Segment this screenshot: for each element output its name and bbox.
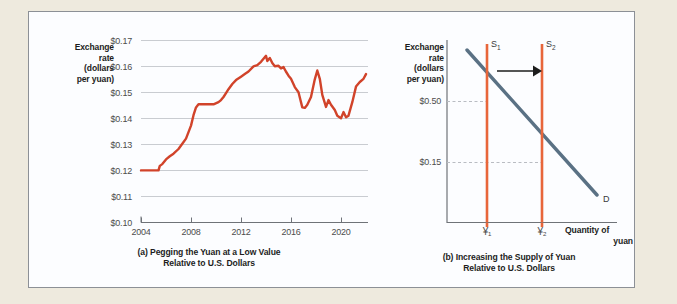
chart-b-y-axis-title: Exchange rate (dollars per yuan)	[369, 42, 444, 84]
chart-a-xtick-2012: 2012	[221, 227, 261, 237]
chart-a-ytick-0.14: $0.14	[89, 114, 132, 124]
chart-b-xtick-yuan-1: ¥₁	[467, 226, 507, 237]
chart-b-caption: (b) Increasing the Supply of Yuan Relati…	[389, 252, 629, 274]
chart-a-x-axis	[141, 217, 368, 223]
chart-a-xtick-2004: 2004	[121, 227, 161, 237]
chart-a-series-line	[141, 56, 366, 171]
chart-a-xtick-2020: 2020	[321, 227, 361, 237]
chart-panel-a: Exchange rate (dollars per yuan) $0.17 $…	[29, 12, 379, 289]
chart-a-caption-line-1: (a) Pegging the Yuan at a Low Value	[84, 247, 334, 258]
y-axis-title-line-3: (dollars	[369, 63, 444, 74]
chart-a-gridlines	[141, 41, 368, 197]
chart-a-xtick-marks	[142, 218, 342, 223]
chart-a-xtick-2016: 2016	[271, 227, 311, 237]
chart-b-axes	[447, 40, 617, 223]
chart-a-caption-line-2: Relative to U.S. Dollars	[84, 258, 334, 269]
chart-a-ytick-0.16: $0.16	[89, 62, 132, 72]
chart-b-ytick-0.15: $0.15	[399, 157, 441, 167]
chart-b-caption-line-1: (b) Increasing the Supply of Yuan	[389, 252, 629, 263]
chart-b-xtick-yuan-2: ¥₂	[522, 226, 562, 237]
chart-a-ytick-0.11: $0.11	[89, 192, 132, 202]
chart-a-ytick-0.17: $0.17	[89, 36, 132, 46]
y-axis-title-line-1: Exchange	[369, 42, 444, 53]
y-axis-title-line-4: per yuan)	[39, 74, 114, 85]
chart-b-shift-arrow-icon	[497, 66, 542, 77]
chart-panel-b: Exchange rate (dollars per yuan) $0.50 $…	[379, 12, 635, 289]
figure-panel: Exchange rate (dollars per yuan) $0.17 $…	[28, 11, 635, 288]
chart-a-xtick-2008: 2008	[171, 227, 211, 237]
chart-a-ytick-0.15: $0.15	[89, 88, 132, 98]
chart-b-x-axis-title: Quantity of yuan	[565, 225, 633, 246]
y-axis-title-line-2: rate	[369, 53, 444, 64]
x-axis-title-line-1: Quantity of	[565, 225, 633, 236]
chart-b-caption-line-2: Relative to U.S. Dollars	[389, 263, 629, 274]
chart-a-plot	[135, 12, 375, 237]
chart-b-label-s2: S2	[546, 39, 556, 51]
chart-b-label-d: D	[603, 194, 610, 204]
y-axis-title-line-4: per yuan)	[369, 74, 444, 85]
chart-a-caption: (a) Pegging the Yuan at a Low Value Rela…	[84, 247, 334, 269]
chart-b-label-s1: S1	[491, 39, 501, 51]
chart-a-ytick-0.12: $0.12	[89, 166, 132, 176]
x-axis-title-line-2: yuan	[565, 236, 633, 247]
chart-a-ytick-0.13: $0.13	[89, 140, 132, 150]
chart-b-equilibrium-leaders	[447, 102, 542, 163]
chart-b-ytick-0.50: $0.50	[399, 96, 441, 106]
